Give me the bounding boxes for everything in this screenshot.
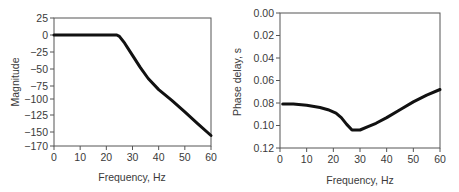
y-axis-title: Magnitude: [9, 57, 21, 106]
x-axis-title: Frequency, Hz: [326, 174, 394, 186]
y-tick-label: 0: [42, 29, 48, 41]
x-tick-label: 30: [354, 153, 366, 165]
phase-delay-chart: 0.000.020.040.060.080.100.12 01020304050…: [231, 7, 446, 187]
magnitude-line: [54, 35, 211, 136]
y-tick-label: −150: [24, 126, 48, 138]
x-tick-label: 60: [434, 153, 446, 165]
x-tick-label: 30: [127, 151, 139, 163]
x-tick-label: 10: [301, 153, 313, 165]
magnitude-chart: 250−25−50−75−100−125−150−170 01020304050…: [9, 12, 217, 184]
y-tick-label: −125: [24, 109, 48, 121]
x-tick-label: 40: [381, 153, 393, 165]
x-tick-label: 50: [407, 153, 419, 165]
y-tick-label: 0.02: [254, 29, 275, 41]
x-tick-label: 0: [51, 151, 57, 163]
y-tick-label: 0.00: [254, 7, 275, 19]
y-tick-label: 0.12: [254, 142, 275, 154]
x-tick-label: 40: [153, 151, 165, 163]
phase-delay-line: [283, 90, 440, 131]
x-axis-ticks: 0102030405060: [277, 148, 446, 165]
y-tick-label: −100: [24, 93, 48, 105]
x-axis-ticks: 0102030405060: [51, 146, 217, 163]
x-tick-label: 10: [74, 151, 86, 163]
y-tick-label: −75: [30, 80, 48, 92]
y-tick-label: 0.10: [254, 119, 275, 131]
x-tick-label: 20: [327, 153, 339, 165]
figure: 250−25−50−75−100−125−150−170 01020304050…: [0, 0, 459, 192]
y-tick-label: 0.08: [254, 97, 275, 109]
x-tick-label: 60: [205, 151, 217, 163]
y-tick-label: 25: [36, 12, 48, 24]
y-tick-label: 0.06: [254, 74, 275, 86]
y-tick-label: −170: [24, 140, 48, 152]
x-tick-label: 0: [277, 153, 283, 165]
y-tick-label: 0.04: [254, 52, 275, 64]
plot-frame: [280, 13, 440, 148]
x-axis-title: Frequency, Hz: [98, 171, 166, 183]
y-axis-ticks: 250−25−50−75−100−125−150−170: [24, 12, 54, 152]
y-axis-ticks: 0.000.020.040.060.080.100.12: [254, 7, 280, 154]
plot-frame: [54, 18, 211, 146]
y-tick-label: −25: [30, 46, 48, 58]
x-tick-label: 20: [100, 151, 112, 163]
x-tick-label: 50: [179, 151, 191, 163]
y-axis-title: Phase delay, s: [231, 48, 243, 116]
y-tick-label: −50: [30, 63, 48, 75]
